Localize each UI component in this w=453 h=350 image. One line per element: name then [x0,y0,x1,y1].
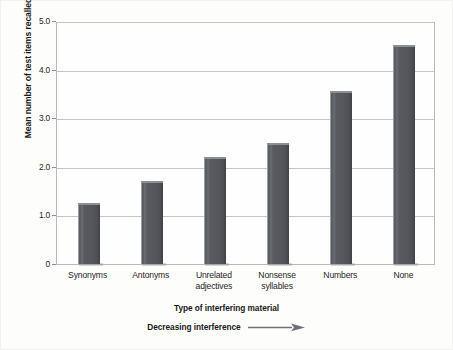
decreasing-interference-note: Decreasing interference [0,322,453,332]
bar[interactable] [393,45,415,264]
decreasing-interference-label: Decreasing interference [147,322,240,332]
plot-area [56,22,435,265]
right-arrow-icon [248,323,306,332]
gridline [57,168,434,169]
bar[interactable] [330,91,352,264]
gridline [57,71,434,72]
y-axis-tick-label: 3.0 [16,113,50,123]
y-axis-tick-mark [52,215,56,216]
y-axis-tick-mark [52,264,56,265]
x-axis-tick-label: None [366,270,440,281]
x-axis-title: Type of interfering material [0,303,453,313]
y-axis-tick-mark [52,118,56,119]
y-axis-tick-mark [52,167,56,168]
y-axis-tick-mark [52,70,56,71]
bar[interactable] [204,157,226,264]
gridline [57,119,434,120]
y-axis-tick-label: 1.0 [16,210,50,220]
bar[interactable] [78,203,100,264]
y-axis-tick-label: 4.0 [16,65,50,75]
y-axis-tick-label: 2.0 [16,162,50,172]
y-axis-tick-mark [52,21,56,22]
gridline [57,216,434,217]
y-axis-tick-label: 0 [16,259,50,269]
gridline [57,22,434,23]
bar[interactable] [141,181,163,264]
bar[interactable] [267,143,289,264]
bar-chart-figure: Mean number of test items recalled 01.02… [0,0,453,350]
y-axis-title: Mean number of test items recalled [23,0,39,178]
x-axis-tick-label-line: syllables [240,281,314,292]
y-axis-tick-label: 5.0 [16,16,50,26]
x-axis-tick-label-line: None [366,270,440,281]
